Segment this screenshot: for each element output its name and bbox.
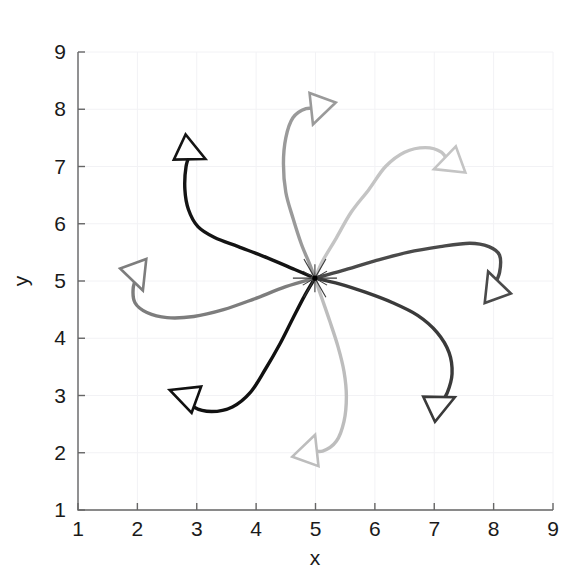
- trajectory-agent-8: [133, 275, 315, 318]
- x-tick-label: 8: [488, 517, 500, 540]
- trajectory-plot: 123456789123456789 x y: [0, 0, 587, 582]
- rendezvous-center-dot: [312, 276, 317, 281]
- trajectory-agent-7: [185, 278, 315, 411]
- y-axis-title: y: [9, 275, 32, 286]
- x-tick-label: 7: [428, 517, 440, 540]
- agent-marker-agent-8: [120, 259, 156, 295]
- trajectory-agent-2: [283, 108, 318, 278]
- y-tick-label: 2: [54, 441, 66, 464]
- y-tick-label: 8: [54, 97, 66, 120]
- trajectory-agent-1: [185, 152, 315, 278]
- trajectory-agent-4: [315, 243, 501, 287]
- y-tick-label: 6: [54, 212, 66, 235]
- y-tick-label: 7: [54, 155, 66, 178]
- x-tick-label: 2: [132, 517, 144, 540]
- x-tick-label: 3: [191, 517, 203, 540]
- x-axis-title: x: [310, 546, 321, 569]
- y-tick-label: 3: [54, 384, 66, 407]
- x-tick-label: 9: [547, 517, 559, 540]
- y-tick-label: 9: [54, 40, 66, 63]
- x-tick-label: 6: [369, 517, 381, 540]
- agent-marker-agent-5: [423, 385, 461, 422]
- agent-marker-agent-6: [292, 430, 328, 466]
- agent-marker-agent-4: [475, 267, 511, 303]
- figure-canvas: 123456789123456789 x y: [0, 0, 587, 582]
- y-tick-label: 1: [54, 498, 66, 521]
- x-tick-label: 4: [250, 517, 262, 540]
- agent-marker-agent-2: [300, 93, 336, 129]
- y-tick-label: 4: [54, 326, 66, 349]
- x-tick-label: 1: [72, 517, 84, 540]
- rendezvous-star-marker: [293, 259, 337, 297]
- y-tick-label: 5: [54, 269, 66, 292]
- x-tick-label: 5: [310, 517, 322, 540]
